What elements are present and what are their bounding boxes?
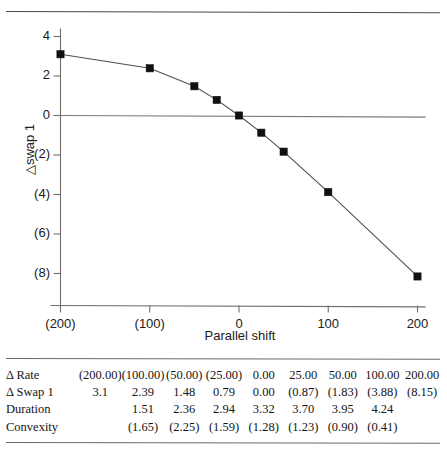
table-cell: (1.28): [244, 418, 284, 435]
chart-axes: [51, 29, 426, 313]
top-divider-rule: [6, 11, 440, 13]
data-table-body: Δ Rate(200.00)(100.00)(50.00)(25.00)0.00…: [6, 366, 442, 436]
table-cell: (100.00): [122, 366, 165, 383]
y-tick-label: (8): [6, 265, 50, 280]
table-cell: 2.36: [164, 401, 204, 418]
table-row-label: Duration: [6, 401, 79, 418]
table-cell: (1.23): [283, 418, 323, 435]
chart-data-markers: [57, 51, 421, 280]
table-cell: (0.87): [283, 383, 323, 400]
table-cell: 0.79: [204, 383, 244, 400]
chart-plot-area: [0, 16, 447, 350]
table-cell: 2.94: [204, 401, 244, 418]
table-cell: (25.00): [204, 366, 244, 383]
data-table: Δ Rate(200.00)(100.00)(50.00)(25.00)0.00…: [6, 366, 442, 436]
y-tick-label: (6): [6, 225, 50, 240]
chart-series-line: [61, 54, 418, 276]
table-row-label: Δ Swap 1: [6, 383, 79, 400]
table-row: Duration1.512.362.943.323.703.954.24: [6, 401, 442, 418]
table-bottom-rule: [6, 442, 440, 444]
table-cell: (0.90): [323, 418, 363, 435]
table-cell: (1.65): [122, 418, 165, 435]
table-cell: [402, 418, 442, 435]
table-top-rule: [6, 358, 440, 360]
y-tick-label: 2: [6, 67, 50, 82]
table-row: Δ Rate(200.00)(100.00)(50.00)(25.00)0.00…: [6, 366, 442, 383]
y-tick-label: 4: [6, 28, 50, 43]
table-cell: 25.00: [283, 366, 323, 383]
table-cell: (3.88): [363, 383, 403, 400]
table-cell: (200.00): [79, 366, 122, 383]
chart-x-axis-title: Parallel shift: [150, 328, 330, 343]
x-tick-label: (200): [31, 316, 91, 331]
table-row-label: Δ Rate: [6, 366, 79, 383]
table-cell: [79, 418, 122, 435]
table-cell: 0.00: [244, 366, 284, 383]
table-cell: (2.25): [164, 418, 204, 435]
table-row-label: Convexity: [6, 418, 79, 435]
chart-figure: 420(2)(4)(6)(8) (200)(100)0100200 △swap …: [0, 16, 447, 350]
x-tick-label: 200: [388, 316, 447, 331]
table-cell: 3.1: [79, 383, 122, 400]
table-row: Convexity(1.65)(2.25)(1.59)(1.28)(1.23)(…: [6, 418, 442, 435]
table-cell: [402, 401, 442, 418]
table-cell: 2.39: [122, 383, 165, 400]
table-cell: 3.32: [244, 401, 284, 418]
table-cell: [79, 401, 122, 418]
table-cell: 100.00: [363, 366, 403, 383]
table-cell: (8.15): [402, 383, 442, 400]
table-cell: 1.51: [122, 401, 165, 418]
table-cell: 3.95: [323, 401, 363, 418]
table-cell: (1.83): [323, 383, 363, 400]
table-cell: (0.41): [363, 418, 403, 435]
table-cell: (50.00): [164, 366, 204, 383]
data-table-wrap: Δ Rate(200.00)(100.00)(50.00)(25.00)0.00…: [6, 366, 442, 436]
table-row: Δ Swap 13.12.391.480.790.00(0.87)(1.83)(…: [6, 383, 442, 400]
table-cell: 4.24: [363, 401, 403, 418]
chart-y-axis-title: △swap 1: [22, 105, 37, 195]
table-cell: 50.00: [323, 366, 363, 383]
table-cell: 200.00: [402, 366, 442, 383]
table-cell: (1.59): [204, 418, 244, 435]
table-cell: 0.00: [244, 383, 284, 400]
chart-zero-line: [61, 116, 426, 118]
table-cell: 3.70: [283, 401, 323, 418]
table-cell: 1.48: [164, 383, 204, 400]
page-root: 420(2)(4)(6)(8) (200)(100)0100200 △swap …: [0, 0, 447, 454]
